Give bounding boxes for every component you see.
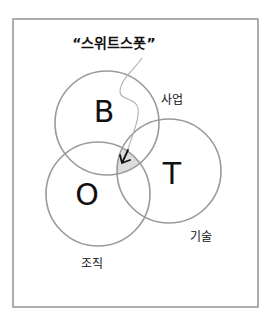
label-organization: 조직 <box>81 257 103 271</box>
venn-diagram: “스위트스폿” B O T 사업 조직 기술 <box>0 0 271 317</box>
letter-t: T <box>162 156 182 191</box>
letter-b: B <box>94 94 115 129</box>
label-technology: 기술 <box>190 230 212 244</box>
letter-o: O <box>75 177 99 212</box>
sweet-spot-label: “스위트스폿” <box>72 35 155 51</box>
label-business: 사업 <box>161 93 183 107</box>
